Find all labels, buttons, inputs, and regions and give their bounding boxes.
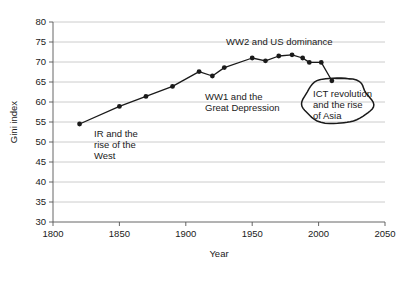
data-point-marker	[170, 84, 175, 89]
data-point-marker	[290, 52, 295, 57]
x-tick-label: 1800	[42, 228, 63, 239]
annotation-line: of Asia	[313, 110, 342, 121]
annotation-line: and the rise	[313, 99, 363, 110]
y-tick-label: 80	[35, 16, 46, 27]
x-tick-label: 1850	[109, 228, 130, 239]
data-point-marker	[319, 60, 324, 65]
data-point-marker	[300, 56, 305, 61]
x-tick-label: 2050	[374, 228, 395, 239]
data-point-marker	[144, 94, 149, 99]
data-point-marker	[307, 60, 312, 65]
gini-index-line-chart: 3035404550556065707580 18001850190019502…	[0, 0, 414, 284]
annotation-line: rise of the	[94, 139, 136, 150]
annotation-ww2-us-dominance: WW2 and US dominance	[226, 36, 333, 47]
annotation-line: Great Depression	[205, 102, 279, 113]
data-point-marker	[222, 65, 227, 70]
y-tick-label: 50	[35, 136, 46, 147]
x-tick-label: 2000	[308, 228, 329, 239]
x-tick-label: 1900	[175, 228, 196, 239]
y-tick-label: 55	[35, 116, 46, 127]
data-point-marker	[263, 58, 268, 63]
y-tick-label: 30	[35, 216, 46, 227]
annotation-line: ICT revolution	[313, 88, 372, 99]
annotation-line: West	[94, 150, 116, 161]
data-point-marker	[276, 54, 281, 59]
y-axis-title: Gini index	[8, 101, 19, 143]
y-tick-label: 75	[35, 36, 46, 47]
annotation-line: IR and the	[94, 128, 138, 139]
y-tick-label: 40	[35, 176, 46, 187]
y-tick-label: 65	[35, 76, 46, 87]
y-tick-label: 60	[35, 96, 46, 107]
annotation-line: WW1 and the	[205, 91, 263, 102]
x-tick-label: 1950	[242, 228, 263, 239]
y-tick-label: 45	[35, 156, 46, 167]
x-axis-title: Year	[209, 248, 228, 259]
data-point-marker	[210, 74, 215, 79]
annotation-line: WW2 and US dominance	[226, 36, 333, 47]
y-tick-label: 35	[35, 196, 46, 207]
chart-container: 3035404550556065707580 18001850190019502…	[0, 0, 414, 284]
data-point-marker	[197, 69, 202, 74]
data-point-marker	[250, 56, 255, 61]
data-point-marker	[117, 104, 122, 109]
data-point-marker	[77, 122, 82, 127]
y-tick-label: 70	[35, 56, 46, 67]
